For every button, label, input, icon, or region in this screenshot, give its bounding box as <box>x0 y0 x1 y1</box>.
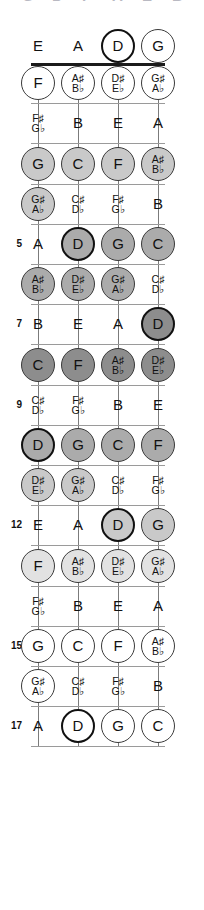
note-marker-D-fret-6[interactable]: G♯A♭ <box>101 267 135 301</box>
note-marker-E-fret-5[interactable]: A <box>21 227 55 261</box>
note-marker-D-fret-0[interactable]: D <box>101 29 135 63</box>
note-marker-A-fret-12[interactable]: A <box>61 508 95 542</box>
note-marker-E-fret-9[interactable]: C♯D♭ <box>21 388 55 422</box>
fret-line-17 <box>31 746 165 747</box>
note-name-primary: D <box>153 317 164 331</box>
note-marker-A-fret-8[interactable]: F <box>61 348 95 382</box>
note-marker-D-fret-3[interactable]: F <box>101 147 135 181</box>
note-name-primary: G <box>112 237 124 251</box>
note-marker-A-fret-1[interactable]: A♯B♭ <box>61 66 95 100</box>
note-marker-A-fret-2[interactable]: B <box>61 106 95 140</box>
note-marker-D-fret-16[interactable]: F♯G♭ <box>101 669 135 703</box>
note-marker-D-fret-10[interactable]: C <box>101 428 135 462</box>
note-marker-G-fret-6[interactable]: C♯D♭ <box>141 267 175 301</box>
note-marker-E-fret-12[interactable]: E <box>21 508 55 542</box>
fret-line-14 <box>31 626 165 627</box>
note-marker-A-fret-16[interactable]: C♯D♭ <box>61 669 95 703</box>
note-marker-A-fret-9[interactable]: F♯G♭ <box>61 388 95 422</box>
note-marker-E-fret-8[interactable]: C <box>21 348 55 382</box>
note-marker-G-fret-4[interactable]: B <box>141 187 175 221</box>
note-name-primary: B <box>113 398 123 412</box>
note-marker-G-fret-1[interactable]: G♯A♭ <box>141 66 175 100</box>
note-marker-A-fret-6[interactable]: D♯E♭ <box>61 267 95 301</box>
clipped-glyph: E <box>142 0 152 4</box>
fret-line-11 <box>31 505 165 506</box>
note-marker-E-fret-0[interactable]: E <box>21 29 55 63</box>
note-marker-E-fret-13[interactable]: F <box>21 549 55 583</box>
note-marker-E-fret-16[interactable]: G♯A♭ <box>21 669 55 703</box>
note-marker-A-fret-4[interactable]: C♯D♭ <box>61 187 95 221</box>
note-marker-D-fret-9[interactable]: B <box>101 388 135 422</box>
note-name-enharmonic: E♭ <box>152 365 164 375</box>
note-marker-A-fret-13[interactable]: A♯B♭ <box>61 549 95 583</box>
note-marker-G-fret-13[interactable]: G♯A♭ <box>141 549 175 583</box>
note-marker-D-fret-15[interactable]: F <box>101 629 135 663</box>
clipped-glyph: B <box>172 0 183 4</box>
note-marker-G-fret-3[interactable]: A♯B♭ <box>141 147 175 181</box>
note-marker-A-fret-17[interactable]: D <box>61 709 95 743</box>
note-marker-D-fret-1[interactable]: D♯E♭ <box>101 66 135 100</box>
note-marker-G-fret-2[interactable]: A <box>141 106 175 140</box>
note-marker-E-fret-15[interactable]: G <box>21 629 55 663</box>
note-marker-E-fret-3[interactable]: G <box>21 147 55 181</box>
note-marker-E-fret-14[interactable]: F♯G♭ <box>21 589 55 623</box>
note-marker-G-fret-17[interactable]: C <box>141 709 175 743</box>
note-marker-D-fret-2[interactable]: E <box>101 106 135 140</box>
note-name-primary: A <box>73 518 83 532</box>
note-marker-D-fret-4[interactable]: F♯G♭ <box>101 187 135 221</box>
note-marker-E-fret-11[interactable]: D♯E♭ <box>21 468 55 502</box>
note-marker-E-fret-7[interactable]: B <box>21 307 55 341</box>
note-marker-A-fret-0[interactable]: A <box>61 29 95 63</box>
note-name-enharmonic: B♭ <box>72 83 84 93</box>
note-marker-G-fret-14[interactable]: A <box>141 589 175 623</box>
note-marker-G-fret-12[interactable]: G <box>141 508 175 542</box>
note-marker-A-fret-5[interactable]: D <box>61 227 95 261</box>
note-name-primary: B <box>153 197 163 211</box>
note-marker-A-fret-14[interactable]: B <box>61 589 95 623</box>
note-marker-E-fret-4[interactable]: G♯A♭ <box>21 187 55 221</box>
note-marker-D-fret-5[interactable]: G <box>101 227 135 261</box>
note-marker-E-fret-2[interactable]: F♯G♭ <box>21 106 55 140</box>
note-marker-E-fret-17[interactable]: A <box>21 709 55 743</box>
note-marker-E-fret-1[interactable]: F <box>21 66 55 100</box>
note-marker-A-fret-11[interactable]: G♯A♭ <box>61 468 95 502</box>
note-marker-D-fret-12[interactable]: D <box>101 508 135 542</box>
note-marker-E-fret-6[interactable]: A♯B♭ <box>21 267 55 301</box>
fret-number-5: 5 <box>2 238 22 249</box>
note-name-enharmonic: A♭ <box>32 204 44 214</box>
note-name-primary: C <box>73 157 84 171</box>
note-marker-D-fret-13[interactable]: D♯E♭ <box>101 549 135 583</box>
note-marker-A-fret-10[interactable]: G <box>61 428 95 462</box>
note-name-primary: C <box>153 719 164 733</box>
note-marker-D-fret-14[interactable]: E <box>101 589 135 623</box>
note-marker-D-fret-8[interactable]: A♯B♭ <box>101 348 135 382</box>
note-marker-G-fret-5[interactable]: C <box>141 227 175 261</box>
note-marker-D-fret-17[interactable]: G <box>101 709 135 743</box>
note-name-primary: D♯ <box>112 556 125 566</box>
note-name-primary: D <box>33 438 44 452</box>
note-name-primary: A <box>73 39 83 53</box>
note-marker-E-fret-10[interactable]: D <box>21 428 55 462</box>
note-marker-G-fret-15[interactable]: A♯B♭ <box>141 629 175 663</box>
note-marker-D-fret-7[interactable]: A <box>101 307 135 341</box>
note-marker-G-fret-7[interactable]: D <box>141 307 175 341</box>
note-name-primary: C <box>153 237 164 251</box>
note-marker-G-fret-10[interactable]: F <box>141 428 175 462</box>
note-marker-G-fret-11[interactable]: F♯G♭ <box>141 468 175 502</box>
note-marker-G-fret-16[interactable]: B <box>141 669 175 703</box>
note-name-enharmonic: A♭ <box>112 284 124 294</box>
note-marker-G-fret-0[interactable]: G <box>141 29 175 63</box>
note-marker-D-fret-11[interactable]: C♯D♭ <box>101 468 135 502</box>
note-marker-A-fret-15[interactable]: C <box>61 629 95 663</box>
note-name-primary: D <box>113 39 124 53</box>
note-marker-A-fret-3[interactable]: C <box>61 147 95 181</box>
note-marker-A-fret-7[interactable]: E <box>61 307 95 341</box>
note-name-primary: A <box>153 116 163 130</box>
note-name-primary: D <box>73 719 84 733</box>
note-marker-G-fret-8[interactable]: D♯E♭ <box>141 348 175 382</box>
note-name-enharmonic: B♭ <box>112 365 124 375</box>
note-marker-G-fret-9[interactable]: E <box>141 388 175 422</box>
note-name-primary: A <box>153 599 163 613</box>
note-name-primary: B <box>73 599 83 613</box>
note-name-primary: G <box>32 157 44 171</box>
